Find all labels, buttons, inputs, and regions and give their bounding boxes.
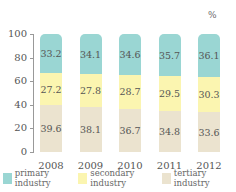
bar-segment-primary: 36.1	[198, 34, 220, 77]
legend-label-secondary: secondary industry	[90, 168, 157, 188]
stacked-bar-2011: 35.729.534.8	[159, 34, 181, 152]
bar-segment-secondary: 30.3	[198, 77, 220, 113]
legend-label-tertiary: tertiary industry	[174, 168, 231, 188]
bar-segment-primary: 35.7	[159, 34, 181, 76]
bar-segment-tertiary: 39.6	[40, 105, 62, 152]
y-tick-label: 0	[0, 147, 27, 157]
legend-item-tertiary: tertiary industry	[162, 168, 231, 188]
bar-segment-tertiary: 36.7	[119, 109, 141, 152]
legend-swatch-tertiary	[162, 173, 171, 184]
legend-item-secondary: secondary industry	[78, 168, 156, 188]
y-tick	[30, 58, 34, 59]
stacked-bar-2008: 33.227.239.6	[40, 34, 62, 152]
y-tick	[30, 152, 34, 153]
y-tick	[30, 81, 34, 82]
bar-segment-secondary: 27.8	[80, 74, 102, 107]
bar-segment-primary: 34.1	[80, 34, 102, 74]
stacked-bar-2010: 34.628.736.7	[119, 34, 141, 152]
legend-item-primary: primary industry	[3, 168, 73, 188]
legend: primary industry secondary industry tert…	[3, 168, 236, 188]
bar-segment-tertiary: 38.1	[80, 107, 102, 152]
bar-segment-tertiary: 33.6	[198, 112, 220, 152]
y-axis	[33, 34, 34, 152]
y-tick-label: 40	[0, 100, 27, 110]
y-tick-label: 100	[0, 29, 27, 39]
bar-segment-primary: 33.2	[40, 34, 62, 73]
y-tick-label: 80	[0, 53, 27, 63]
y-tick	[30, 34, 34, 35]
bar-segment-primary: 34.6	[119, 34, 141, 75]
stacked-bar-2009: 34.127.838.1	[80, 34, 102, 152]
bar-segment-secondary: 27.2	[40, 73, 62, 105]
y-tick-label: 60	[0, 76, 27, 86]
y-tick-label: 20	[0, 123, 27, 133]
y-tick	[30, 105, 34, 106]
bar-segment-secondary: 28.7	[119, 75, 141, 109]
stacked-bar-2012: 36.130.333.6	[198, 34, 220, 152]
unit-label: %	[208, 10, 217, 20]
bar-segment-tertiary: 34.8	[159, 111, 181, 152]
legend-label-primary: primary industry	[15, 168, 74, 188]
legend-swatch-secondary	[78, 173, 87, 184]
bar-segment-secondary: 29.5	[159, 76, 181, 111]
y-tick	[30, 128, 34, 129]
legend-swatch-primary	[3, 173, 12, 184]
